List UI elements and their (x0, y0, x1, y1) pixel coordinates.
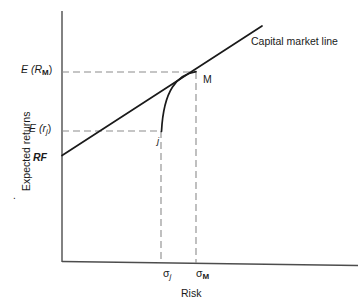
x-axis-tick-label-sigma-m: σM (196, 268, 209, 281)
capital-market-line-figure: E (RM) E (rj) RF Expected returns . σj σ… (0, 0, 363, 308)
y-axis-title-prefix-dot: . (13, 190, 16, 201)
erm-close-paren: ) (49, 63, 53, 75)
x-axis-line (62, 262, 358, 266)
y-axis-tick-label-rf: RF (33, 152, 47, 163)
efficient-frontier-curve (162, 72, 197, 132)
y-axis-tick-label-erm: E (RM) (21, 64, 52, 77)
point-label-m: M (203, 74, 212, 85)
erj-close-paren: ) (48, 122, 52, 134)
x-axis-title: Risk (181, 288, 201, 299)
capital-market-line (62, 26, 262, 156)
y-axis-tick-label-erj: E (rj) (29, 123, 51, 136)
capital-market-line-annotation: Capital market line (251, 36, 338, 47)
erm-subscript: M (42, 68, 49, 77)
erm-base: E (R (21, 63, 42, 75)
point-label-j: j (157, 136, 159, 146)
y-axis-title: Expected returns (21, 76, 32, 226)
sigma-j-subscript: j (169, 272, 171, 281)
sigma-m-subscript: M (202, 272, 209, 281)
x-axis-tick-label-sigma-j: σj (163, 268, 171, 281)
